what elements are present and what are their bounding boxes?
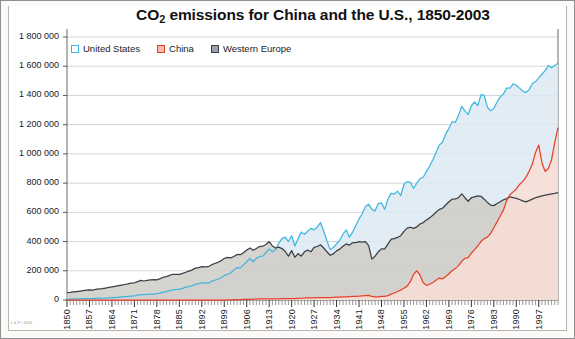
- x-axis-tick-label: 1983: [489, 309, 499, 330]
- x-axis-tick-label: 1955: [399, 309, 409, 330]
- x-axis-tick-label: 1920: [287, 309, 297, 330]
- chart-credit: L & P / 2003: [11, 321, 32, 325]
- y-axis-tick-label: 1 400 000: [3, 89, 59, 99]
- x-axis-tick-label: 1857: [84, 309, 94, 330]
- chart-frame: CO2 emissions for China and the U.S., 18…: [0, 0, 575, 339]
- x-axis-tick-label: 1997: [534, 309, 544, 330]
- x-axis-tick-label: 1850: [62, 309, 72, 330]
- y-axis-tick-label: 1 600 000: [3, 60, 59, 70]
- x-axis-tick-label: 1878: [152, 309, 162, 330]
- y-axis-tick-label: 1 200 000: [3, 119, 59, 129]
- x-axis-tick-label: 1941: [354, 309, 364, 330]
- x-axis-tick-label: 1864: [107, 309, 117, 330]
- y-axis-tick-label: 200 000: [3, 265, 59, 275]
- y-axis-tick-label: 1 000 000: [3, 148, 59, 158]
- y-axis-tick-label: 400 000: [3, 236, 59, 246]
- y-axis-tick-label: 0: [3, 294, 59, 304]
- x-axis-tick-label: 1990: [511, 309, 521, 330]
- x-axis-tick-label: 1871: [129, 309, 139, 330]
- x-axis-tick-label: 1892: [197, 309, 207, 330]
- x-axis-tick-label: 1948: [376, 309, 386, 330]
- x-axis-tick-label: 1906: [242, 309, 252, 330]
- y-axis-tick-label: 800 000: [3, 177, 59, 187]
- x-axis-tick-label: 1969: [444, 309, 454, 330]
- y-axis-tick-label: 1 800 000: [3, 31, 59, 41]
- x-axis-tick-label: 1913: [264, 309, 274, 330]
- x-axis-tick-label: 1899: [219, 309, 229, 330]
- x-axis-tick-label: 1934: [332, 309, 342, 330]
- x-axis-tick-label: 1976: [466, 309, 476, 330]
- x-axis-tick-label: 1927: [309, 309, 319, 330]
- plot-area: [1, 1, 575, 339]
- chart-svg: [1, 1, 575, 339]
- y-axis-tick-label: 600 000: [3, 206, 59, 216]
- x-axis-tick-label: 1962: [421, 309, 431, 330]
- x-axis-tick-label: 1885: [174, 309, 184, 330]
